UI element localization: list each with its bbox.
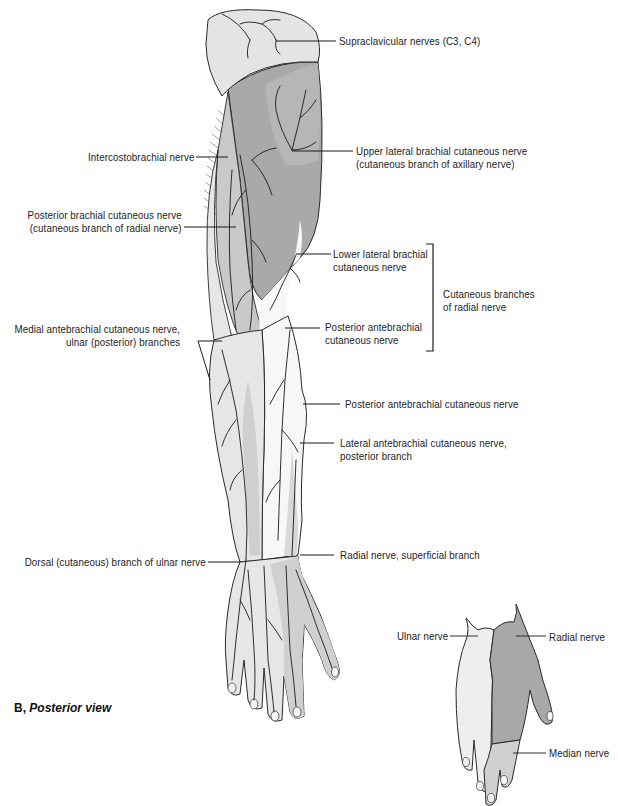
label-dorsal-branch-of-ulnar-nerve: Dorsal (cutaneous) branch of ulnar nerve	[25, 556, 206, 569]
caption-view: Posterior view	[29, 701, 111, 715]
label-inset-median-nerve: Median nerve	[549, 747, 609, 760]
label-inset-ulnar-nerve: Ulnar nerve	[397, 630, 448, 643]
main-arm-illustration	[184, 10, 433, 721]
label-medial-antebrachial-cutaneous-nerve: Medial antebrachial cutaneous nerve, uln…	[14, 323, 180, 348]
label-posterior-antebrachial-cutaneous-nerve-upper: Posterior antebrachial cutaneous nerve	[325, 321, 422, 346]
inset-hand-illustration	[450, 604, 553, 805]
label-intercostobrachial-nerve: Intercostobrachial nerve	[88, 151, 194, 164]
label-radial-nerve-superficial-branch: Radial nerve, superficial branch	[340, 549, 480, 562]
label-lower-lateral-brachial-cutaneous-nerve: Lower lateral brachial cutaneous nerve	[333, 248, 428, 273]
figure-caption: B, Posterior view	[14, 701, 111, 715]
inset-radial-zone	[490, 604, 553, 744]
label-inset-radial-nerve: Radial nerve	[549, 631, 605, 644]
caption-letter: B,	[14, 701, 26, 715]
zone-forearm-white	[262, 316, 307, 560]
label-upper-lateral-brachial-cutaneous-nerve: Upper lateral brachial cutaneous nerve (…	[356, 145, 527, 170]
label-cutaneous-branches-of-radial-nerve: Cutaneous branches of radial nerve	[443, 288, 535, 313]
arm-nerve-diagram	[0, 0, 618, 806]
label-posterior-brachial-cutaneous-nerve: Posterior brachial cutaneous nerve (cuta…	[28, 209, 182, 234]
label-lateral-antebrachial-cutaneous-nerve: Lateral antebrachial cutaneous nerve, po…	[340, 437, 507, 462]
label-posterior-antebrachial-cutaneous-nerve: Posterior antebrachial cutaneous nerve	[345, 398, 518, 411]
label-supraclavicular-nerves: Supraclavicular nerves (C3, C4)	[339, 35, 480, 48]
